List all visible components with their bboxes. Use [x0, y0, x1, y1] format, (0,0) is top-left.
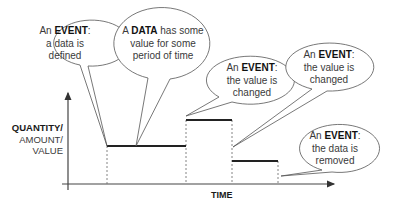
value-steps — [107, 120, 278, 161]
y-axis-label: QUANTITY/ AMOUNT/ VALUE — [12, 122, 63, 157]
event-guides — [107, 120, 278, 184]
callout-event-defined: An EVENT: a data is defined — [34, 25, 96, 63]
x-axis-label: TIME — [211, 190, 233, 200]
diagram-canvas: An EVENT: a data is defined A DATA has s… — [0, 0, 394, 210]
callout-event-changed-1: An EVENT: the value is changed — [216, 62, 288, 100]
callout-data-period: A DATA has some value for some period of… — [120, 25, 206, 63]
callout-event-removed: An EVENT: the data is removed — [301, 130, 369, 168]
callout-event-changed-2: An EVENT: the value is changed — [293, 49, 365, 87]
